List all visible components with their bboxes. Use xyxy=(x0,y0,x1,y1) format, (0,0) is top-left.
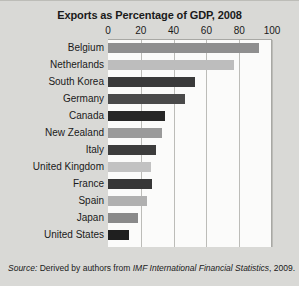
bar-row xyxy=(108,57,271,74)
bar-row xyxy=(108,40,271,57)
category-label: South Korea xyxy=(0,73,104,90)
bar xyxy=(108,43,259,53)
x-tick-label: 40 xyxy=(168,25,179,36)
bar-row xyxy=(108,74,271,91)
bar xyxy=(108,60,234,70)
source-label: Source: xyxy=(8,263,37,273)
category-label: Germany xyxy=(0,90,104,107)
bar xyxy=(108,77,195,87)
category-label: Belgium xyxy=(0,39,104,56)
x-tick-label: 20 xyxy=(135,25,146,36)
category-label: France xyxy=(0,175,104,192)
x-tick-label: 60 xyxy=(201,25,212,36)
category-label: New Zealand xyxy=(0,124,104,141)
bar-row xyxy=(108,227,271,244)
source-text-before: Derived by authors from xyxy=(37,263,132,273)
bar-row xyxy=(108,210,271,227)
x-axis-tick-labels: 020406080100 xyxy=(108,25,272,38)
chart-figure: Exports as Percentage of GDP, 2008 02040… xyxy=(0,0,299,286)
x-tick-label: 0 xyxy=(105,25,111,36)
chart-title: Exports as Percentage of GDP, 2008 xyxy=(0,9,299,21)
bar xyxy=(108,145,156,155)
bar-row xyxy=(108,142,271,159)
x-tick-label: 80 xyxy=(234,25,245,36)
bar-row xyxy=(108,91,271,108)
bar xyxy=(108,213,138,223)
y-axis-category-labels: BelgiumNetherlandsSouth KoreaGermanyCana… xyxy=(0,39,104,247)
bar xyxy=(108,230,129,240)
plot-area xyxy=(108,39,272,247)
bar xyxy=(108,111,165,121)
x-tick-label: 100 xyxy=(264,25,281,36)
bar-row xyxy=(108,176,271,193)
bar xyxy=(108,128,162,138)
category-label: Spain xyxy=(0,192,104,209)
category-label: Canada xyxy=(0,107,104,124)
bar xyxy=(108,94,185,104)
category-label: United Kingdom xyxy=(0,158,104,175)
bar xyxy=(108,179,152,189)
category-label: United States xyxy=(0,226,104,243)
bar-row xyxy=(108,108,271,125)
category-label: Japan xyxy=(0,209,104,226)
source-publication: IMF International Financial Statistics xyxy=(133,263,269,273)
category-label: Italy xyxy=(0,141,104,158)
source-text-after: , 2009. xyxy=(269,263,295,273)
category-label: Netherlands xyxy=(0,56,104,73)
bar-row xyxy=(108,159,271,176)
bar xyxy=(108,196,147,206)
gridline xyxy=(272,40,273,247)
bar xyxy=(108,162,151,172)
bar-series xyxy=(108,40,271,247)
bar-row xyxy=(108,125,271,142)
bar-row xyxy=(108,193,271,210)
source-note: Source: Derived by authors from IMF Inte… xyxy=(8,263,293,273)
